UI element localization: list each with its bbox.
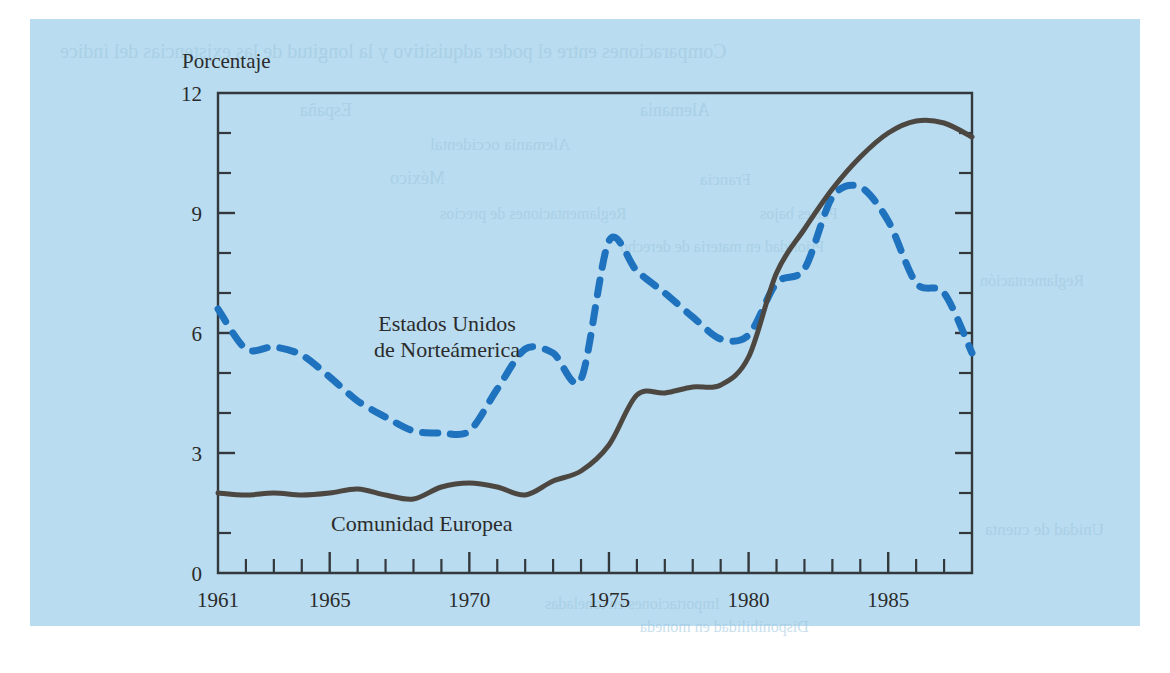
x-tick-label: 1980: [728, 588, 770, 612]
series-label-usa: Estados Unidosde Norteámerica: [374, 311, 520, 362]
figure-root: Comparaciones entre el poder adquisitivo…: [0, 0, 1170, 673]
x-tick-label: 1965: [309, 588, 351, 612]
series-label-european-community: Comunidad Europea: [331, 511, 513, 536]
x-tick-label: 1975: [588, 588, 630, 612]
series-line-usa: [218, 185, 972, 434]
y-tick-label: 12: [181, 82, 202, 106]
y-tick-label: 9: [192, 202, 203, 226]
x-axis-tick-labels: 196119651970197519801985: [197, 588, 909, 612]
y-tick-label: 3: [192, 442, 203, 466]
chart-series-labels: Estados Unidosde NorteámericaComunidad E…: [331, 311, 520, 536]
x-tick-label: 1985: [867, 588, 909, 612]
y-axis-ticks: [218, 133, 972, 533]
line-chart: 036912 196119651970197519801985 Porcenta…: [0, 0, 1170, 673]
x-tick-label: 1970: [448, 588, 490, 612]
y-tick-label: 6: [192, 322, 203, 346]
y-axis-tick-labels: 036912: [181, 82, 202, 586]
x-tick-label: 1961: [197, 588, 239, 612]
chart-series-layer: [218, 120, 972, 499]
x-axis-ticks: [246, 552, 944, 573]
axis-frame: [218, 93, 972, 573]
y-tick-label: 0: [192, 562, 203, 586]
y-axis-title: Porcentaje: [182, 49, 271, 73]
